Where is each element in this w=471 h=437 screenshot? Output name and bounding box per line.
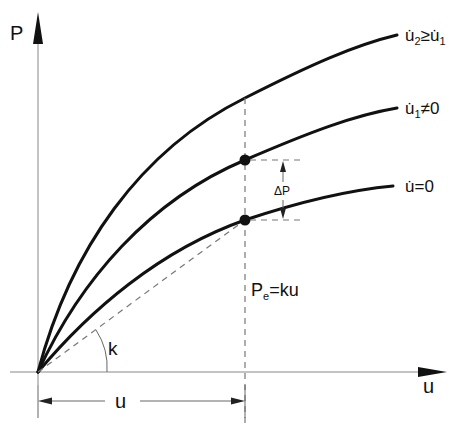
elastic-force-label: Pe=ku [251, 280, 299, 302]
curve-middle-label: u̇1≠0 [405, 99, 439, 120]
force-displacement-diagram: P u ΔP k Pe=ku u̇2≥u̇1 u̇1≠0 u̇=0 [0, 0, 471, 437]
displacement-dimension [38, 385, 245, 418]
arrow-up-icon [280, 161, 286, 172]
y-axis-label: P [10, 22, 23, 44]
x-axis [10, 367, 447, 377]
y-axis-arrow-icon [33, 12, 43, 44]
point-middle [240, 155, 251, 166]
x-axis-label: u [423, 375, 434, 397]
stiffness-label: k [108, 338, 118, 359]
arrow-right-icon [231, 398, 245, 405]
curve-bottom-label: u̇=0 [405, 177, 434, 196]
curve-top-label: u̇2≥u̇1 [405, 26, 446, 47]
arrow-left-icon [38, 398, 52, 405]
delta-p-label: ΔP [274, 184, 290, 198]
arrow-down-icon [280, 208, 286, 219]
point-bottom [240, 215, 251, 226]
curve-top [38, 35, 397, 372]
stiffness-angle-arc [96, 330, 107, 372]
displacement-label: u [115, 390, 126, 412]
curve-bottom [38, 186, 393, 372]
secant-line [38, 220, 245, 372]
y-axis [33, 12, 43, 385]
